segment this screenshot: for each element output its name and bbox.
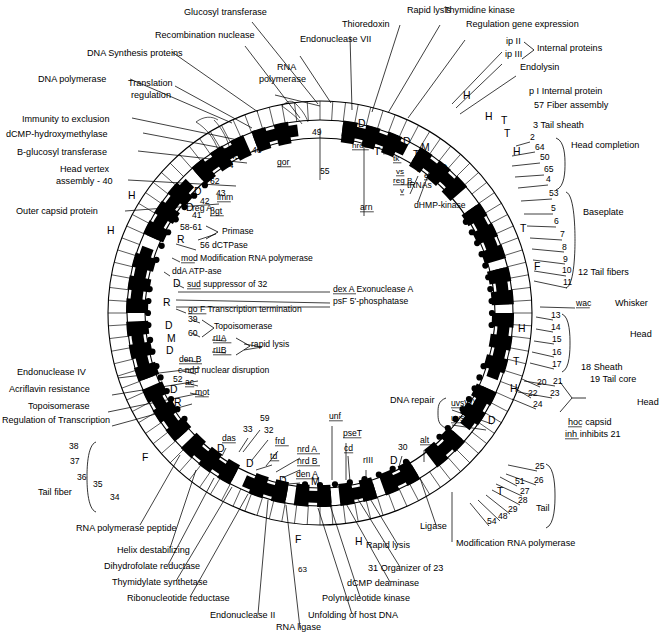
- inner-label-81: 24: [533, 399, 543, 409]
- inner-label-87: 29: [508, 504, 518, 514]
- outer-label-top-18: 3 Tail sheath: [533, 120, 584, 130]
- inner-label-70: 11: [563, 277, 572, 287]
- gene-marker-22: H: [355, 536, 363, 547]
- inner-label-54: 37: [70, 456, 80, 466]
- gene-marker-49: reg B: [393, 176, 412, 185]
- gene-marker-23: 63: [298, 565, 308, 574]
- outer-label-24: Ligase: [420, 521, 447, 531]
- gene-marker-15: D: [217, 443, 225, 454]
- gene-marker-10: M: [167, 333, 176, 344]
- gene-marker-28: T: [374, 146, 381, 157]
- inner-label-14: 58-61: [180, 222, 202, 232]
- gene-marker-52: αgt: [258, 137, 270, 146]
- inner-label-29: rIIB: [213, 345, 227, 355]
- inner-label-66: 7: [560, 229, 565, 239]
- inner-label-37: uvsY): [451, 413, 473, 423]
- inner-label-1: gor: [277, 157, 290, 167]
- gene-marker-48: vs: [396, 167, 404, 176]
- outer-label-3: B-glucosyl transferase: [17, 147, 107, 157]
- inner-label-19: mod Modification RNA polymerase: [181, 253, 313, 263]
- outer-label-top-22: Whisker: [615, 298, 648, 308]
- gene-marker-24: R: [270, 131, 278, 142]
- outer-label-17: Endonuclease II: [210, 610, 275, 620]
- gene-marker-32: D: [440, 163, 448, 174]
- inner-label-53: 38: [69, 441, 79, 451]
- outer-label-9: Topoisomerase: [28, 401, 90, 411]
- outer-label-18: RNA ligase: [276, 622, 321, 632]
- inner-label-47: unf: [329, 411, 342, 421]
- outer-label-top-13: ip III: [505, 49, 522, 59]
- outer-label-19: Unfolding of host DNA: [308, 610, 399, 620]
- inner-label-17: Primase: [222, 226, 254, 236]
- inner-label-80: 23: [550, 388, 560, 398]
- gene-marker-26: M: [390, 134, 399, 145]
- gene-marker-5: D: [186, 202, 194, 213]
- inner-label-3: arn: [360, 202, 373, 212]
- outer-label-top-16: p I Internal protein: [529, 86, 602, 96]
- gene-marker-36: T: [504, 128, 511, 139]
- inner-label-6: 49: [312, 127, 322, 137]
- inner-label-60: 50: [540, 152, 550, 162]
- gene-marker-13: R: [174, 397, 182, 408]
- outer-label-11: Tail fiber: [38, 487, 72, 497]
- inner-label-82: 25: [535, 461, 545, 471]
- outer-label-13: Helix destabilizing: [117, 545, 190, 555]
- inner-label-62: 4: [546, 174, 551, 184]
- inner-label-27: Topoisomerase: [214, 321, 272, 331]
- inner-label-34: 52: [173, 374, 183, 384]
- outer-label-top-23: Head: [630, 329, 652, 339]
- gene-marker-35: T: [501, 115, 508, 126]
- outer-label-top-28: inh inhibits 21: [565, 429, 621, 439]
- gene-marker-38: T: [520, 223, 527, 234]
- map-labels: DNA polymeraseImmunity to exclusiondCMP-…: [2, 5, 659, 632]
- outer-label-10: Regulation of Transcription: [2, 415, 110, 425]
- gene-marker-44: T: [497, 486, 504, 497]
- gene-marker-0: H: [128, 190, 136, 201]
- outer-label-12: RNA polymerase peptide: [76, 523, 177, 533]
- outer-label-top-1: regulation: [131, 90, 171, 100]
- gene-marker-50: v: [400, 186, 405, 195]
- outer-label-top-24: 18 Sheath: [581, 362, 622, 372]
- inner-label-75: 16: [552, 347, 562, 357]
- inner-label-22: dex A Exonuclease A: [333, 284, 414, 294]
- inner-label-31: den B: [179, 354, 202, 364]
- inner-label-28: rIIA: [213, 333, 227, 343]
- inner-label-25: 39: [188, 314, 198, 324]
- outer-label-top-29: Tail: [536, 503, 550, 513]
- inner-label-65: 6: [554, 216, 559, 226]
- outer-label-top-20: Baseplate: [583, 207, 623, 217]
- inner-label-4: dHMP-kinase: [414, 200, 466, 210]
- outer-label-top-7: polymerase: [259, 74, 306, 84]
- gene-marker-30: M: [421, 142, 430, 153]
- outer-label-22: 31 Organizer of 23: [368, 563, 443, 573]
- gene-marker-14: F: [142, 452, 148, 463]
- inner-label-58: 2: [530, 132, 535, 142]
- gene-marker-1: H: [107, 225, 115, 236]
- inner-label-56: 35: [93, 479, 103, 489]
- outer-label-4: Head vertex: [60, 164, 109, 174]
- inner-label-71: wac: [575, 298, 592, 308]
- gene-marker-20: R: [432, 450, 440, 461]
- outer-label-top-2: DNA Synthesis proteins: [87, 48, 183, 58]
- inner-label-23: psF 5'-phosphatase: [333, 296, 408, 306]
- inner-label-76: 17: [552, 359, 562, 369]
- inner-label-51: 30: [398, 442, 408, 452]
- gene-marker-9: D: [165, 320, 173, 331]
- outer-label-20: Polynucleotide kinase: [322, 593, 410, 603]
- inner-label-32: c ndd nuclear disruption: [178, 365, 269, 375]
- gene-marker-21: F: [295, 534, 301, 545]
- inner-label-61: 65: [544, 164, 554, 174]
- outer-label-2: dCMP-hydroxymethylase: [6, 129, 108, 139]
- inner-label-43: td: [270, 451, 277, 461]
- outer-label-7: Endonuclease IV: [17, 367, 87, 377]
- outer-label-0: DNA polymerase: [38, 74, 106, 84]
- outer-label-top-4: Glucosyl transferase: [184, 7, 267, 17]
- inner-label-86: 28: [518, 495, 528, 505]
- outer-label-top-25: 19 Tail core: [590, 374, 636, 384]
- inner-label-78: 21: [553, 376, 563, 386]
- inner-label-40: 32: [264, 425, 274, 435]
- gene-marker-25: D: [358, 118, 366, 129]
- gene-marker-2: D: [218, 151, 226, 162]
- outer-label-top-11: Regulation gene expression: [466, 19, 579, 29]
- inner-label-88: 48: [498, 511, 508, 521]
